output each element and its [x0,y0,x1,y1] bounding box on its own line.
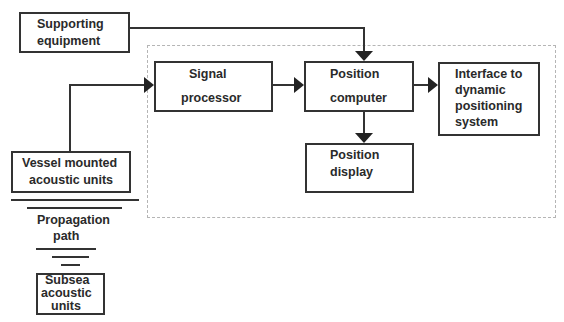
node-label: Supporting [37,17,104,32]
propagation-line [27,207,122,209]
node-label: acoustic units [29,173,113,188]
node-label: system [455,115,498,130]
node-label: positioning [455,99,522,114]
arrow-right-icon [294,77,304,93]
node-label: computer [330,91,387,106]
node-subsea-acoustic-units: Subsea acoustic units [36,273,105,315]
arrow-down-icon [355,51,373,61]
propagation-path-label: path [53,229,79,244]
connector-vessel-horizontal [69,84,145,86]
propagation-line [61,264,80,266]
node-position-computer: Position computer [304,61,414,112]
connector-computer-to-display [363,111,365,135]
diagram-canvas: Supporting equipment Signal processor Po… [0,0,564,322]
node-supporting-equipment: Supporting equipment [19,12,130,53]
arrow-down-icon [355,133,373,143]
node-position-display: Position display [305,143,414,193]
node-label: Signal [189,67,227,82]
node-signal-processor: Signal processor [154,61,273,112]
connector-computer-to-interface [413,84,429,86]
node-vessel-acoustic-units: Vessel mounted acoustic units [11,151,131,193]
node-label: dynamic [455,83,506,98]
node-label: Vessel mounted [22,156,117,171]
arrow-right-icon [144,77,154,93]
node-interface-dynamic-positioning: Interface to dynamic positioning system [438,62,540,136]
propagation-line [52,256,89,258]
arrow-right-icon [428,77,438,93]
node-label: processor [181,91,241,106]
connector-signal-to-computer [272,84,296,86]
propagation-line [36,248,96,250]
connector-supporting-vertical [363,27,365,53]
node-label: equipment [37,34,100,49]
node-label: units [51,300,81,313]
connector-vessel-vertical [69,84,71,151]
node-label: Position [330,67,379,82]
connector-supporting-horizontal [129,27,365,29]
node-label: display [330,165,373,180]
propagation-line [11,199,139,201]
node-label: Interface to [455,67,522,82]
propagation-path-label: Propagation [37,213,110,228]
node-label: Position [330,148,379,163]
